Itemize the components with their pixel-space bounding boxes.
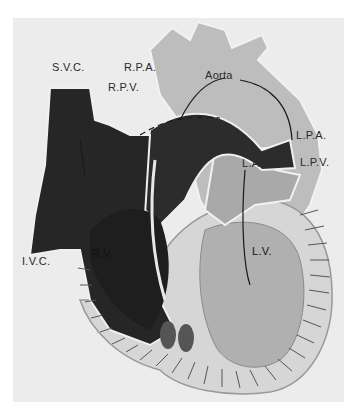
valve-leaflet-1: [160, 321, 176, 349]
label-lv: L.V.: [252, 246, 272, 257]
label-lpv: L.P.V.: [300, 157, 329, 168]
label-ivc: I.V.C.: [22, 256, 50, 267]
label-lpa: L.P.A.: [296, 130, 326, 141]
label-rpv: R.P.V.: [108, 82, 139, 93]
label-la: L.A.: [242, 158, 263, 169]
label-aorta: Aorta: [205, 70, 233, 81]
label-svc: S.V.C.: [52, 62, 85, 73]
label-rv: R.V.: [92, 248, 114, 259]
left-ventricle-chamber: [200, 222, 304, 367]
valve-leaflet-2: [178, 324, 194, 352]
label-rpa: R.P.A.: [124, 62, 156, 73]
